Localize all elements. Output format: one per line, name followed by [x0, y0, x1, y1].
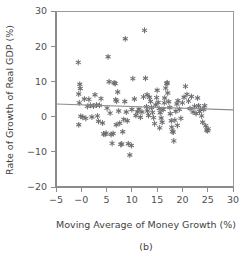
- x-tick-label: 5: [104, 194, 110, 205]
- y-axis-title: Rate of Growth of Real GDP (%): [4, 25, 15, 175]
- data-point: [162, 100, 166, 105]
- data-point: [123, 36, 127, 41]
- y-tick-label: 0: [41, 111, 47, 122]
- data-point: [154, 95, 158, 100]
- data-point: [90, 114, 94, 119]
- y-tick-label: 30: [35, 5, 47, 16]
- data-point: [121, 129, 125, 134]
- data-point: [87, 97, 91, 102]
- data-point: [183, 84, 187, 89]
- data-point: [129, 143, 133, 148]
- data-point: [130, 107, 134, 112]
- data-point: [174, 109, 178, 114]
- plot-frame: [56, 11, 233, 187]
- y-axis-tick-labels: −20−100102030: [27, 5, 47, 192]
- data-point: [172, 138, 176, 143]
- data-point: [151, 115, 155, 120]
- x-tick-label: 20: [176, 194, 188, 205]
- x-tick-label: −0: [74, 194, 88, 205]
- data-point: [152, 121, 156, 126]
- data-point: [168, 111, 172, 116]
- x-tick-label: −5: [49, 194, 63, 205]
- data-point: [132, 97, 136, 102]
- data-point: [77, 92, 81, 97]
- data-point: [155, 88, 159, 93]
- x-tick-label: 30: [227, 194, 239, 205]
- figure-caption: (b): [139, 241, 152, 252]
- data-point: [123, 99, 127, 104]
- data-point: [99, 96, 103, 101]
- data-point: [131, 76, 135, 81]
- y-tick-label: −20: [27, 181, 47, 192]
- axis-tick-marks: [51, 11, 233, 192]
- data-point: [180, 100, 184, 105]
- data-point: [110, 141, 114, 146]
- data-point: [77, 122, 81, 127]
- data-point: [189, 94, 193, 99]
- data-point: [179, 116, 183, 121]
- x-tick-label: 25: [202, 194, 214, 205]
- data-point: [93, 92, 97, 97]
- data-point: [195, 95, 199, 100]
- x-tick-label: 15: [151, 194, 163, 205]
- data-point: [164, 86, 168, 91]
- data-point: [107, 79, 111, 84]
- scatter-plot: −20−100102030 −5−051015202530 Rate of Gr…: [0, 0, 251, 259]
- data-point: [106, 54, 110, 59]
- data-point: [82, 97, 86, 102]
- data-point: [141, 94, 145, 99]
- data-point: [128, 152, 132, 157]
- x-tick-label: 10: [126, 194, 138, 205]
- data-point: [167, 99, 171, 104]
- data-point: [158, 125, 162, 130]
- data-point: [108, 111, 112, 116]
- y-tick-label: −10: [27, 146, 47, 157]
- data-point: [143, 76, 147, 81]
- data-point: [96, 119, 100, 124]
- data-point: [100, 120, 104, 125]
- data-point: [116, 89, 120, 94]
- figure-panel: −20−100102030 −5−051015202530 Rate of Gr…: [0, 0, 251, 259]
- y-tick-label: 10: [35, 76, 47, 87]
- data-point-group: [76, 28, 210, 158]
- data-point: [166, 91, 170, 96]
- x-axis-tick-labels: −5−051015202530: [49, 194, 239, 205]
- data-point: [117, 108, 121, 113]
- data-point: [95, 113, 99, 118]
- data-point: [163, 95, 167, 100]
- y-tick-label: 20: [35, 41, 47, 52]
- x-axis-title: Moving Average of Money Growth (%): [56, 219, 236, 230]
- data-point: [186, 99, 190, 104]
- data-point: [177, 107, 181, 112]
- data-point: [175, 123, 179, 128]
- data-point: [105, 106, 109, 111]
- data-point: [138, 115, 142, 120]
- data-point: [78, 86, 82, 91]
- data-point: [76, 60, 80, 65]
- data-point: [200, 120, 204, 125]
- data-point: [126, 141, 130, 146]
- data-point: [142, 28, 146, 33]
- data-point: [124, 110, 128, 115]
